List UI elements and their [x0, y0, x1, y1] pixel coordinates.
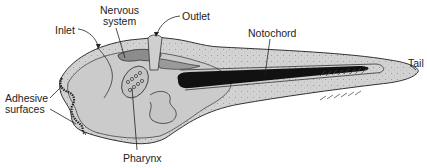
label-nervous-line2: system: [100, 16, 139, 27]
inlet-leader: [78, 29, 98, 46]
label-inlet: Inlet: [55, 25, 75, 36]
label-adhesive-surfaces: Adhesive surfaces: [5, 93, 48, 115]
label-nervous-system: Nervous system: [100, 5, 139, 27]
label-pharynx: Pharynx: [123, 153, 162, 164]
outlet-leader: [157, 16, 180, 34]
label-adhesive-line2: surfaces: [5, 104, 48, 115]
label-outlet: Outlet: [182, 11, 210, 22]
label-tail: Tail: [408, 58, 424, 69]
label-notochord: Notochord: [248, 28, 296, 39]
